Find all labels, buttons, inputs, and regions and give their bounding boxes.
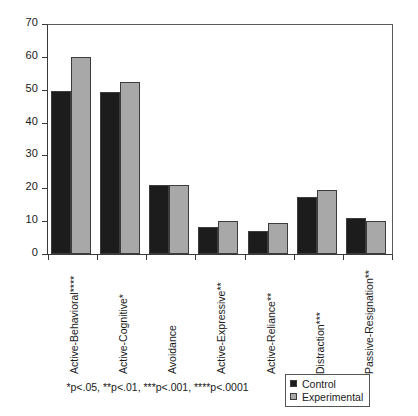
y-axis-tick-mark bbox=[42, 254, 47, 255]
bar-group bbox=[146, 24, 195, 254]
bar-control bbox=[100, 92, 120, 254]
bar-control bbox=[149, 185, 169, 254]
bar-experimental bbox=[169, 185, 189, 254]
y-axis-tick-mark bbox=[42, 123, 47, 124]
bar-control bbox=[346, 218, 366, 254]
y-axis-tick-mark bbox=[42, 188, 47, 189]
y-axis-tick-label: 0 bbox=[32, 247, 38, 258]
y-axis-tick-label: 30 bbox=[26, 148, 38, 159]
bar-group bbox=[343, 24, 392, 254]
y-axis-tick-mark bbox=[42, 24, 47, 25]
legend-label-control: Control bbox=[302, 378, 336, 390]
x-axis-tick-mark bbox=[48, 255, 49, 260]
y-axis-tick-mark bbox=[42, 57, 47, 58]
bar-experimental bbox=[317, 190, 337, 254]
legend-label-experimental: Experimental bbox=[302, 391, 363, 403]
legend-item-control: Control bbox=[290, 377, 363, 390]
bar-group bbox=[294, 24, 343, 254]
bar-group bbox=[195, 24, 244, 254]
x-axis bbox=[48, 255, 392, 261]
x-axis-label: Active-Behavioral**** bbox=[68, 262, 82, 374]
bar-group bbox=[48, 24, 97, 254]
bar-experimental bbox=[71, 57, 91, 254]
x-axis-tick-mark bbox=[294, 255, 295, 260]
y-axis-tick-label: 70 bbox=[26, 17, 38, 28]
legend-swatch-control-icon bbox=[290, 380, 297, 387]
x-axis-tick-mark bbox=[97, 255, 98, 260]
y-axis-tick-mark bbox=[42, 221, 47, 222]
x-axis-tick-mark bbox=[195, 255, 196, 260]
bar-control bbox=[51, 91, 71, 254]
y-axis-tick-mark bbox=[42, 155, 47, 156]
x-axis-label: Passive-Resignation** bbox=[363, 262, 377, 374]
bar-control bbox=[248, 231, 268, 254]
y-axis: 706050403020100 bbox=[0, 24, 47, 255]
legend: Control Experimental bbox=[285, 374, 370, 407]
x-axis-label: Distraction*** bbox=[314, 262, 328, 374]
x-axis-label: Active-Expressive** bbox=[215, 262, 229, 374]
x-axis-tick-mark bbox=[146, 255, 147, 260]
bar-experimental bbox=[366, 221, 386, 254]
bar-experimental bbox=[120, 82, 140, 254]
x-axis-tick-mark bbox=[392, 255, 393, 260]
legend-item-experimental: Experimental bbox=[290, 390, 363, 403]
x-axis-label: Active-Cognitive* bbox=[117, 262, 131, 374]
bar-experimental bbox=[268, 223, 288, 254]
x-axis-tick-mark bbox=[343, 255, 344, 260]
x-axis-labels: Active-Behavioral****Active-Cognitive*Av… bbox=[48, 262, 392, 374]
bars-layer bbox=[48, 24, 392, 254]
y-axis-tick-label: 50 bbox=[26, 83, 38, 94]
y-axis-tick-label: 10 bbox=[26, 214, 38, 225]
y-axis-tick-label: 20 bbox=[26, 181, 38, 192]
y-axis-tick-label: 60 bbox=[26, 50, 38, 61]
y-axis-tick-mark bbox=[42, 90, 47, 91]
x-axis-label: Active-Reliance** bbox=[265, 262, 279, 374]
significance-footnote: *p<.05, **p<.01, ***p<.001, ****p<.0001 bbox=[60, 381, 255, 394]
bar-control bbox=[297, 197, 317, 254]
bar-group bbox=[245, 24, 294, 254]
x-axis-tick-mark bbox=[245, 255, 246, 260]
bar-experimental bbox=[218, 221, 238, 255]
bar-control bbox=[198, 227, 218, 254]
y-axis-tick-label: 40 bbox=[26, 116, 38, 127]
x-axis-label: Avoidance bbox=[166, 262, 180, 374]
bar-group bbox=[97, 24, 146, 254]
bar-chart: 706050403020100 Active-Behavioral****Act… bbox=[0, 0, 418, 416]
legend-swatch-experimental-icon bbox=[290, 393, 297, 400]
